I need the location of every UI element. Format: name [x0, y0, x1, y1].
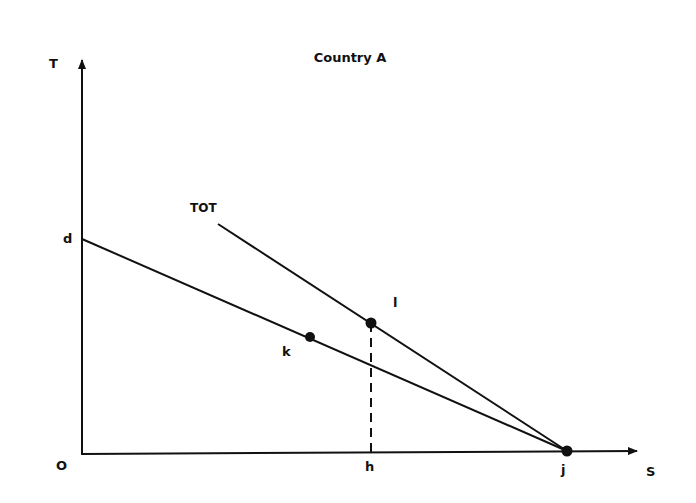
point-j-label: j — [560, 462, 565, 477]
y-axis-label: T — [49, 56, 58, 71]
tot-line — [218, 224, 567, 451]
point-l-dot — [366, 318, 377, 329]
origin-label: O — [56, 458, 67, 473]
budget-line — [82, 239, 567, 451]
x-axis-label: S — [646, 464, 655, 479]
diagram-svg: Country A T S O d TOT k l j h — [0, 0, 696, 503]
point-k-label: k — [282, 344, 291, 359]
diagram-title: Country A — [314, 50, 387, 65]
point-h-label: h — [365, 459, 374, 474]
point-d-label: d — [63, 231, 72, 246]
point-l-label: l — [393, 295, 397, 310]
diagram-canvas: Country A T S O d TOT k l j h — [0, 0, 696, 503]
point-j-dot — [562, 446, 573, 457]
tot-label: TOT — [190, 201, 217, 215]
x-axis — [82, 451, 637, 454]
point-k-dot — [305, 332, 315, 342]
